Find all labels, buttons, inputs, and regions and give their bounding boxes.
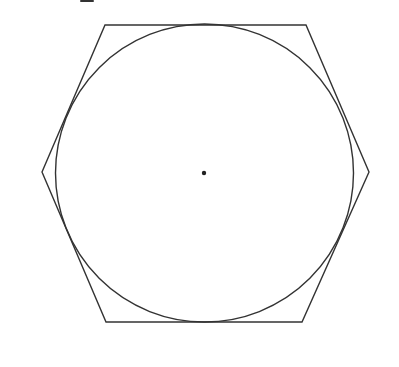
top-glyph-fragment [80,0,94,2]
center-point [202,171,206,175]
inscribed-circle-diagram [0,0,399,367]
